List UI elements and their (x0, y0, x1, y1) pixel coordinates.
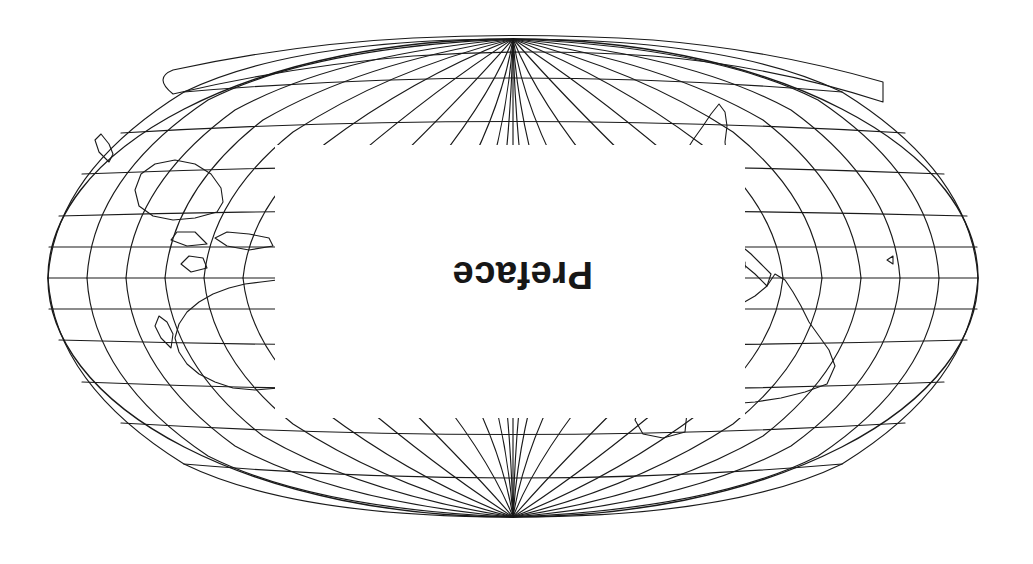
page-title: Preface (452, 253, 593, 296)
page-canvas: Preface (0, 0, 1033, 564)
world-map-figure: Preface (0, 0, 1033, 564)
